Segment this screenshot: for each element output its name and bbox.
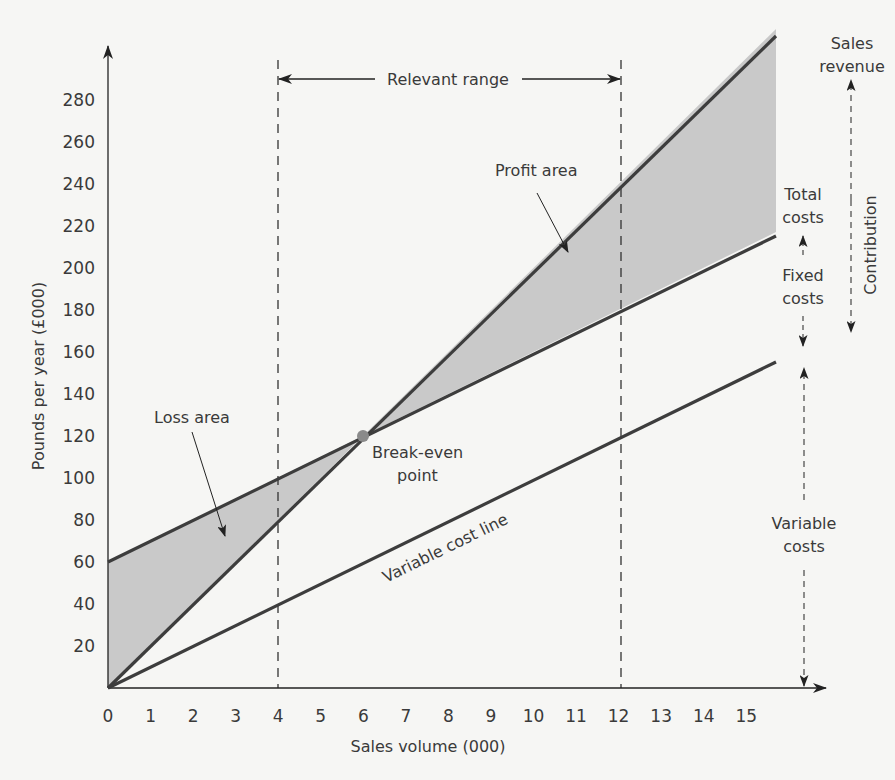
y-tick-label: 180 xyxy=(63,300,95,320)
x-tick-label: 6 xyxy=(358,706,369,726)
x-axis-title: Sales volume (000) xyxy=(350,737,505,756)
variable-costs-label-line2: costs xyxy=(783,537,825,556)
y-tick-label: 80 xyxy=(73,510,95,530)
x-tick-labels: 0123456789101112131415 xyxy=(103,706,757,726)
break-even-chart: Relevant range Break-even point Variable… xyxy=(0,0,895,780)
y-tick-label: 40 xyxy=(73,594,95,614)
y-tick-label: 200 xyxy=(63,258,95,278)
break-even-point-marker xyxy=(357,430,369,442)
profit-area-shading xyxy=(363,29,776,436)
total-costs-line xyxy=(108,236,776,562)
variable-costs-label-line1: Variable xyxy=(772,514,837,533)
y-tick-label: 220 xyxy=(63,216,95,236)
total-costs-label-line2: costs xyxy=(782,208,824,227)
y-tick-label: 280 xyxy=(63,90,95,110)
x-tick-label: 1 xyxy=(145,706,156,726)
x-tick-label: 13 xyxy=(650,706,672,726)
y-tick-label: 140 xyxy=(63,384,95,404)
total-costs-label-line1: Total xyxy=(783,185,821,204)
y-axis-title: Pounds per year (£000) xyxy=(29,282,48,470)
y-tick-label: 260 xyxy=(63,132,95,152)
y-tick-label: 100 xyxy=(63,468,95,488)
x-tick-label: 8 xyxy=(443,706,454,726)
y-tick-label: 120 xyxy=(63,426,95,446)
x-tick-label: 12 xyxy=(608,706,630,726)
y-tick-label: 160 xyxy=(63,342,95,362)
sales-revenue-line xyxy=(108,36,776,688)
y-tick-label: 240 xyxy=(63,174,95,194)
x-tick-label: 11 xyxy=(565,706,587,726)
y-tick-label: 60 xyxy=(73,552,95,572)
x-tick-label: 15 xyxy=(735,706,757,726)
profit-area-label: Profit area xyxy=(495,161,578,180)
y-tick-labels: 20406080100120140160180200220240260280 xyxy=(63,90,95,656)
contribution-label: Contribution xyxy=(861,195,880,294)
x-tick-label: 10 xyxy=(523,706,545,726)
sales-revenue-label-line2: revenue xyxy=(819,57,885,76)
x-tick-label: 0 xyxy=(103,706,114,726)
y-tick-label: 20 xyxy=(73,636,95,656)
loss-area-label: Loss area xyxy=(154,408,230,427)
variable-cost-line-label: Variable cost line xyxy=(379,509,510,586)
x-tick-label: 14 xyxy=(693,706,715,726)
x-tick-label: 5 xyxy=(315,706,326,726)
break-even-label-line2: point xyxy=(397,466,438,485)
break-even-label-line1: Break-even xyxy=(372,443,463,462)
relevant-range-label: Relevant range xyxy=(387,70,509,89)
x-tick-label: 9 xyxy=(486,706,497,726)
fixed-costs-label-line1: Fixed xyxy=(782,266,823,285)
x-tick-label: 4 xyxy=(273,706,284,726)
x-tick-label: 2 xyxy=(188,706,199,726)
sales-revenue-label-line1: Sales xyxy=(831,34,874,53)
x-tick-label: 7 xyxy=(400,706,411,726)
profit-area-pointer xyxy=(537,193,568,252)
fixed-costs-label-line2: costs xyxy=(782,289,824,308)
x-tick-label: 3 xyxy=(230,706,241,726)
